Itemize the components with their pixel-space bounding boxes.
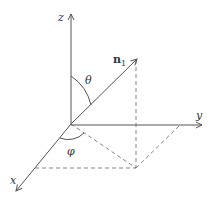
phi-arc xyxy=(60,133,84,140)
x-axis xyxy=(16,124,71,191)
n1-vector xyxy=(71,59,137,124)
y-parallel-dashed-line xyxy=(136,125,180,168)
z-axis-label: z xyxy=(57,11,64,24)
x-axis-label: x xyxy=(10,174,17,187)
theta-label: θ xyxy=(85,74,92,87)
xy-projection-line xyxy=(71,124,136,168)
phi-label: φ xyxy=(67,145,75,158)
spherical-coordinate-diagram: z y x n1 θ φ xyxy=(0,0,213,199)
n1-label: n1 xyxy=(113,53,126,68)
y-axis-label: y xyxy=(195,109,203,122)
n1-subscript: 1 xyxy=(121,59,126,68)
